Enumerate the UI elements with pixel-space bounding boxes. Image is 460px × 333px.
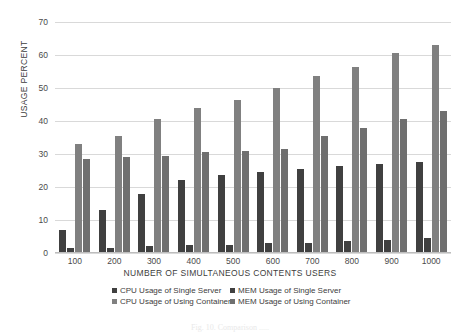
bar [400,119,407,253]
x-axis-title: NUMBER OF SIMULTANEOUS CONTENTS USERS [0,268,460,278]
bar [99,210,106,253]
y-axis-tick-label: 40 [39,116,48,126]
bar-group [134,22,174,253]
bar [138,194,145,253]
y-axis-tick-label: 60 [39,50,48,60]
chart-legend: CPU Usage of Single ServerMEM Usage of S… [0,286,460,306]
legend-entry[interactable]: CPU Usage of Single Server [112,286,230,295]
y-axis-tick-label: 20 [39,182,48,192]
bar-group [55,22,95,253]
x-axis-tick-label: 400 [174,256,214,266]
bar [75,144,82,253]
bar [360,128,367,253]
legend-label: MEM Usage of Using Container [238,297,351,306]
bar [162,156,169,253]
x-axis-tick-label: 800 [332,256,372,266]
x-axis-tick-label: 700 [293,256,333,266]
bar [432,45,439,253]
bar [154,119,161,253]
bar-group [372,22,412,253]
bar [123,157,130,253]
legend-swatch-icon [230,288,235,293]
y-axis-title: USAGE PERCENT [19,9,29,149]
bar [242,151,249,253]
bar [416,162,423,253]
x-axis-tick-labels: 1002003004005006007008009001000 [55,256,451,266]
bar [115,136,122,253]
legend-row: CPU Usage of Single ServerMEM Usage of S… [112,286,348,295]
figure-caption: Fig. 10. Comparison ..... [0,323,460,332]
y-axis-tick-label: 0 [43,248,48,258]
y-axis-tick-label: 30 [39,149,48,159]
bar-group [95,22,135,253]
bar [321,136,328,253]
x-axis-tick-label: 200 [95,256,135,266]
bar [352,67,359,253]
bar-group [411,22,451,253]
legend-label: CPU Usage of Using Container [120,297,231,306]
legend-swatch-icon [112,299,117,304]
bar-group [253,22,293,253]
x-axis-tick-label: 900 [372,256,412,266]
x-axis-tick-label: 600 [253,256,293,266]
legend-row: CPU Usage of Using ContainerMEM Usage of… [112,297,348,306]
bar [336,166,343,253]
x-axis-tick-label: 100 [55,256,95,266]
bar-group [332,22,372,253]
bar-group [174,22,214,253]
bar-group [293,22,333,253]
bar [234,100,241,253]
gridline [55,253,451,254]
bar [392,53,399,253]
legend-entry[interactable]: MEM Usage of Single Server [230,286,348,295]
bar [281,149,288,253]
legend-swatch-icon [230,299,235,304]
bar [202,152,209,253]
bar [178,180,185,253]
bar-group [213,22,253,253]
bar [440,111,447,253]
legend-label: CPU Usage of Single Server [120,286,221,295]
x-axis-tick-label: 300 [134,256,174,266]
bar [313,76,320,253]
x-axis-tick-label: 500 [213,256,253,266]
x-axis-line [55,252,451,253]
legend-label: MEM Usage of Single Server [238,286,341,295]
legend-swatch-icon [112,288,117,293]
bar [59,230,66,253]
bar [376,164,383,253]
y-axis-tick-label: 70 [39,17,48,27]
figure: 010203040506070 USAGE PERCENT 1002003004… [0,0,460,333]
bar [297,169,304,253]
legend-entry[interactable]: CPU Usage of Using Container [112,297,230,306]
bar [83,159,90,253]
bar [257,172,264,253]
bar-groups [55,22,451,253]
y-axis-tick-label: 10 [39,215,48,225]
y-axis-tick-label: 50 [39,83,48,93]
legend-entry[interactable]: MEM Usage of Using Container [230,297,348,306]
bar [218,175,225,253]
plot-area: 010203040506070 [55,22,451,253]
bar [273,88,280,253]
bar [424,238,431,253]
bar [194,108,201,253]
x-axis-tick-label: 1000 [411,256,451,266]
